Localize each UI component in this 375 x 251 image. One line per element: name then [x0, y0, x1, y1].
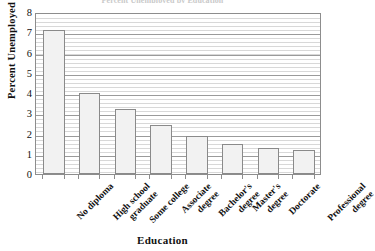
bar-series: [36, 14, 320, 174]
x-tick-mark: [185, 175, 186, 179]
x-tick-mark: [114, 175, 115, 179]
x-tick-mark: [149, 175, 150, 179]
y-axis-tick-labels: 012345678: [18, 0, 32, 251]
x-tick-mark: [78, 175, 79, 179]
x-tick-mark: [42, 175, 43, 179]
bar: [258, 148, 279, 174]
y-axis-tick-label: 1: [18, 150, 32, 160]
x-tick-mark: [257, 175, 258, 179]
y-axis-tick-label: 0: [18, 170, 32, 180]
x-tick-mark: [221, 175, 222, 179]
y-axis-tick-label: 6: [18, 49, 32, 59]
y-axis-title: Percent Unemployed: [6, 0, 17, 111]
x-tick-mark: [314, 175, 315, 179]
x-category-label: No diploma: [75, 181, 116, 222]
x-tick-mark: [207, 175, 208, 179]
bar: [115, 109, 136, 174]
y-axis-tick-label: 3: [18, 109, 32, 119]
x-category-label-line: Doctorate: [287, 181, 323, 217]
x-category-label: Professionaldegree: [326, 181, 375, 231]
bar: [186, 136, 207, 174]
x-tick-mark: [292, 175, 293, 179]
x-tick-mark: [171, 175, 172, 179]
x-category-label-line: No diploma: [75, 181, 116, 222]
y-axis-tick-label: 5: [18, 69, 32, 79]
bar: [79, 93, 100, 174]
y-axis-tick-label: 4: [18, 89, 32, 99]
x-tick-mark: [99, 175, 100, 179]
y-axis-tick-label: 7: [18, 28, 32, 38]
x-category-label: Doctorate: [287, 181, 323, 217]
x-tick-mark: [135, 175, 136, 179]
bar: [293, 150, 314, 174]
chart-title: Percent Unemployed by Education: [0, 0, 325, 3]
bar: [150, 125, 171, 174]
bar: [43, 30, 64, 174]
x-tick-mark: [64, 175, 65, 179]
x-tick-mark: [278, 175, 279, 179]
bar: [222, 144, 243, 174]
plot-area: [35, 13, 321, 175]
x-tick-mark: [242, 175, 243, 179]
y-axis-tick-label: 8: [18, 8, 32, 18]
x-category-label: Master'sdegree: [250, 181, 290, 221]
x-axis-title: Education: [0, 234, 325, 246]
y-axis-tick-label: 2: [18, 130, 32, 140]
